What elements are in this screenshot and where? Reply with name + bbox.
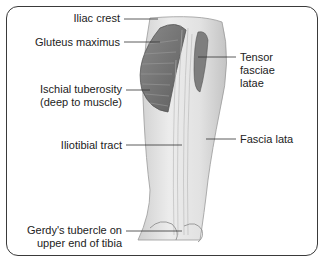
label-tensor-3: latae — [240, 77, 264, 90]
label-ischial-tuberosity-1: Ischial tuberosity — [40, 83, 122, 96]
label-ischial-tuberosity-2: (deep to muscle) — [40, 96, 122, 109]
label-gerdys-tubercle-1: Gerdy's tubercle on — [27, 224, 122, 237]
label-tensor-1: Tensor — [240, 51, 273, 64]
label-gluteus-maximus: Gluteus maximus — [35, 36, 120, 49]
label-fascia-lata: Fascia lata — [240, 133, 293, 146]
label-gerdys-tubercle-2: upper end of tibia — [37, 237, 122, 250]
label-iliotibial-tract: Iliotibial tract — [61, 139, 122, 152]
label-tensor-2: fasciae — [240, 64, 275, 77]
label-iliac-crest: Iliac crest — [74, 12, 120, 25]
